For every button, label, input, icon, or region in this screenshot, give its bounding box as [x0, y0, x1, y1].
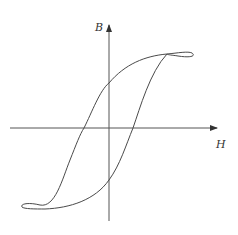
hysteresis-lower-branch — [45, 54, 167, 209]
hysteresis-diagram: B H — [0, 0, 238, 235]
h-axis-label: H — [215, 138, 226, 151]
b-axis-label: B — [94, 21, 103, 34]
hysteresis-upper-branch — [22, 52, 194, 209]
